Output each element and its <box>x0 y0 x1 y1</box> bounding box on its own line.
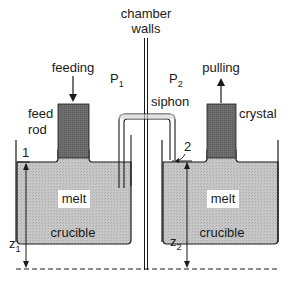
right-crucible-label: crucible <box>200 225 245 240</box>
feeding-label: feeding <box>52 60 95 75</box>
chamber-walls <box>145 38 148 270</box>
chamber-label-line2: walls <box>131 21 161 36</box>
p1-label: P1 <box>110 71 124 89</box>
feed-rod-label-line1: feed <box>28 106 53 121</box>
pulling-label: pulling <box>202 60 240 75</box>
crystal <box>207 104 236 158</box>
left-melt-label: melt <box>62 191 87 206</box>
crystal-label: crystal <box>239 106 277 121</box>
pulling-arrow <box>217 78 225 103</box>
feed-rod <box>58 104 89 158</box>
p2-label: P2 <box>169 71 183 89</box>
left-crucible-label: crucible <box>51 225 96 240</box>
feeding-arrow <box>69 76 77 102</box>
feed-rod-label-line2: rod <box>28 122 47 137</box>
right-melt-label: melt <box>211 191 236 206</box>
right-crucible <box>162 104 278 244</box>
chamber-label-line1: chamber <box>121 6 172 21</box>
marker-2-label: 2 <box>184 139 191 154</box>
siphon-label: siphon <box>151 94 189 109</box>
marker-1-label: 1 <box>22 145 29 160</box>
siphon-crystal-growth-diagram: chamber walls feeding pulling feed rod c… <box>0 0 292 284</box>
